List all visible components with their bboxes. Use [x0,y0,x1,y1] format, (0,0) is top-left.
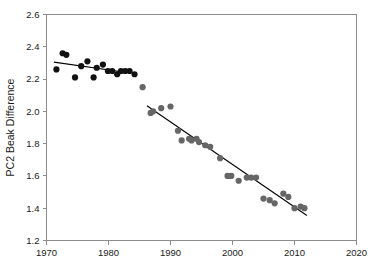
data-point [228,173,234,179]
y-tick-label: 2.0 [26,106,39,117]
data-point [100,61,106,67]
data-point [53,66,59,72]
data-point [150,108,156,114]
data-point [217,155,223,161]
data-point [91,74,97,80]
y-tick-label: 1.6 [26,170,39,181]
y-tick-label: 2.4 [26,41,39,52]
x-tick-label: 1980 [98,247,119,258]
data-point [140,84,146,90]
data-point [167,103,173,109]
data-point [196,139,202,145]
series-late-period [140,84,308,211]
y-tick-label: 2.2 [26,73,39,84]
y-tick-label: 1.2 [26,235,39,246]
data-point [207,144,213,150]
scatter-chart: 1.21.41.61.82.02.22.42.61970198019902000… [0,0,373,259]
y-axis: 1.21.41.61.82.02.22.42.6 [26,9,46,246]
chart-canvas: 1.21.41.61.82.02.22.42.61970198019902000… [0,0,373,259]
plot-frame-box [47,15,357,241]
data-point [272,200,278,206]
x-tick-label: 2000 [222,247,243,258]
data-point [260,195,266,201]
y-axis-title: PC2 Beak Difference [4,78,16,176]
data-point [72,74,78,80]
data-point [285,194,291,200]
x-tick-label: 1970 [36,247,57,258]
data-point [84,58,90,64]
data-point [63,52,69,58]
plot-frame [47,15,357,241]
y-tick-label: 2.6 [26,9,39,20]
data-point [253,174,259,180]
x-tick-label: 2010 [284,247,305,258]
data-point [291,205,297,211]
y-tick-label: 1.8 [26,138,39,149]
data-point [301,205,307,211]
data-point [78,63,84,69]
data-point [94,65,100,71]
data-point [175,128,181,134]
data-point [179,137,185,143]
x-tick-label: 1990 [160,247,181,258]
y-tick-label: 1.4 [26,203,39,214]
late-period-trend [147,106,307,216]
data-point [131,71,137,77]
x-tick-label: 2020 [346,247,367,258]
x-axis: 197019801990200020102020 [36,241,367,258]
data-point [236,178,242,184]
data-point [158,105,164,111]
series-early-period [53,50,137,80]
